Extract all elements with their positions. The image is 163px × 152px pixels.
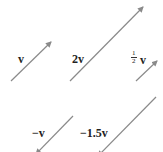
label-neg-v: −v	[32, 127, 45, 139]
vector-v-arrow	[11, 42, 51, 81]
label-neg-1-5v: −1.5v	[80, 127, 108, 139]
label-2v: 2v	[72, 53, 84, 65]
vector-2v-arrow	[70, 7, 143, 81]
vector-neg-1-5v-arrow	[98, 97, 156, 152]
vector-diagram: v 2v 1 2 v −v −1.5v	[0, 0, 163, 152]
label-half-fraction: 1 2	[131, 50, 137, 65]
label-half-v: v	[140, 54, 146, 66]
label-v: v	[18, 53, 24, 65]
fraction-denominator: 2	[131, 58, 137, 65]
